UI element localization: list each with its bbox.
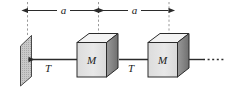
tension-label-left: T [45,62,52,74]
dimension-right: a [99,4,169,16]
physics-diagram-figure: a a M [0,0,229,96]
fixed-wall [21,36,32,87]
wall-plate [21,36,32,87]
block-1: M [77,34,118,78]
tension-label-right: T [128,62,135,74]
extension-lines [28,2,170,36]
dimension-label-a-left: a [61,4,67,16]
block-2-mass-label: M [157,54,168,66]
diagram-canvas: a a M [0,0,229,96]
block-2: M [148,34,189,78]
dimension-left: a [28,4,98,16]
block-1-mass-label: M [86,54,97,66]
dimension-label-a-right: a [132,4,138,16]
